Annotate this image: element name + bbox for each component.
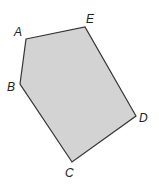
vertex-label-a: A — [13, 25, 22, 39]
pentagon-shape — [20, 27, 136, 162]
vertex-label-b: B — [7, 80, 15, 94]
pentagon-diagram: A E D C B — [0, 0, 159, 190]
vertex-label-e: E — [86, 12, 95, 26]
vertex-label-d: D — [139, 111, 148, 125]
vertex-label-c: C — [65, 166, 74, 180]
